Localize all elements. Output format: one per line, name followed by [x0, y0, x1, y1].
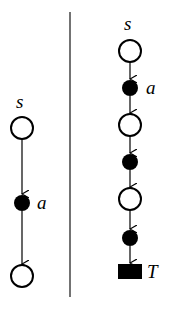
left-action-label: a — [37, 192, 47, 213]
right-action-node-2 — [122, 154, 138, 170]
right-state-node-1 — [119, 40, 141, 62]
right-start-label: s — [124, 13, 131, 34]
right-action-node-3 — [122, 230, 138, 246]
diagram-canvas: s a s a T — [0, 0, 173, 309]
left-state-node-end — [11, 265, 33, 287]
left-start-label: s — [16, 91, 23, 112]
right-action-label: a — [146, 77, 156, 98]
left-state-node-start — [11, 117, 33, 139]
left-action-node — [14, 195, 30, 211]
right-terminal-label: T — [147, 261, 159, 282]
right-terminal-node — [118, 264, 142, 279]
right-graph: s a T — [118, 13, 159, 282]
right-state-node-3 — [119, 188, 141, 210]
right-state-node-2 — [119, 114, 141, 136]
left-graph: s a — [11, 91, 47, 287]
right-action-node-1 — [122, 80, 138, 96]
